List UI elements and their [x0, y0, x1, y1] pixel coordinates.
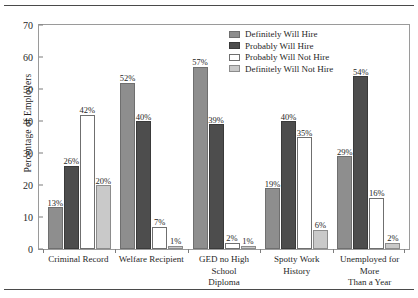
- y-tick-label: 50: [23, 84, 39, 95]
- bar-group: 29%54%16%2%: [333, 25, 405, 249]
- x-tick-mark: [115, 249, 116, 253]
- top-rule: [4, 5, 414, 6]
- bar-value-label: 16%: [369, 189, 385, 198]
- bar-value-label: 20%: [95, 177, 111, 186]
- x-category-label-line: Spotty Work: [260, 254, 333, 266]
- bar-slot: 2%: [385, 25, 400, 249]
- bar-slot: 26%: [64, 25, 79, 249]
- bar-group: 13%26%42%20%: [43, 25, 115, 249]
- bar[interactable]: 40%: [281, 121, 296, 249]
- bar-value-label: 2%: [387, 234, 398, 243]
- x-category-label-line: Than a Year: [333, 277, 406, 289]
- bar[interactable]: 1%: [168, 246, 183, 249]
- legend-item[interactable]: Definitely Will Not Hire: [229, 64, 333, 74]
- y-tick-label: 30: [23, 148, 39, 159]
- y-tick-label: 0: [28, 244, 39, 255]
- bar-slot: 54%: [353, 25, 368, 249]
- x-category-label-line: Unemployed for More: [333, 254, 406, 277]
- x-category-label: GED no High SchoolDiploma: [188, 254, 261, 289]
- legend-item[interactable]: Definitely Will Hire: [229, 29, 333, 39]
- x-category-label-line: History: [260, 266, 333, 278]
- bar[interactable]: 1%: [241, 246, 256, 249]
- bar-slot: 16%: [369, 25, 384, 249]
- plot-area: 010203040506070 13%26%42%20%52%40%7%1%57…: [38, 24, 410, 250]
- bar[interactable]: 42%: [80, 115, 95, 249]
- legend-label: Definitely Will Not Hire: [245, 64, 333, 74]
- x-tick-mark: [43, 249, 44, 253]
- x-tick-mark: [333, 249, 334, 253]
- legend-label: Definitely Will Hire: [245, 29, 317, 39]
- bar-value-label: 2%: [226, 234, 237, 243]
- bar-value-label: 52%: [120, 74, 136, 83]
- legend-swatch-icon: [229, 54, 240, 61]
- bar-value-label: 1%: [170, 237, 181, 246]
- bar[interactable]: 35%: [297, 137, 312, 249]
- bar-value-label: 7%: [154, 218, 165, 227]
- x-category-label: Spotty WorkHistory: [260, 254, 333, 289]
- bar-value-label: 35%: [297, 129, 313, 138]
- y-tick-label: 40: [23, 116, 39, 127]
- legend-label: Probably Will Hire: [245, 41, 313, 51]
- bar-slot: 29%: [337, 25, 352, 249]
- bar[interactable]: 26%: [64, 166, 79, 249]
- legend-swatch-icon: [229, 65, 240, 72]
- bar[interactable]: 52%: [120, 83, 135, 249]
- bar[interactable]: 20%: [96, 185, 111, 249]
- x-category-label: Unemployed for MoreThan a Year: [333, 254, 406, 289]
- bar[interactable]: 29%: [337, 156, 352, 249]
- bar[interactable]: 2%: [225, 243, 240, 249]
- x-category-label-line: GED no High School: [188, 254, 261, 277]
- bar-value-label: 42%: [79, 106, 95, 115]
- bar-slot: 57%: [193, 25, 208, 249]
- bar-slot: 40%: [136, 25, 151, 249]
- bar-slot: 7%: [152, 25, 167, 249]
- x-axis-categories: Criminal RecordWelfare RecipientGED no H…: [38, 254, 410, 289]
- y-tick-label: 60: [23, 52, 39, 63]
- x-tick-mark: [260, 249, 261, 253]
- bar[interactable]: 19%: [265, 188, 280, 249]
- bar-value-label: 1%: [242, 237, 253, 246]
- y-tick-label: 70: [23, 20, 39, 31]
- bar-group: 52%40%7%1%: [115, 25, 187, 249]
- bar[interactable]: 16%: [369, 198, 384, 249]
- bar-value-label: 19%: [265, 180, 281, 189]
- y-tick-label: 10: [23, 212, 39, 223]
- legend-item[interactable]: Probably Will Not Hire: [229, 52, 333, 62]
- bar-value-label: 26%: [63, 157, 79, 166]
- bar[interactable]: 54%: [353, 76, 368, 249]
- figure: Percentage of Employers 010203040506070 …: [0, 0, 418, 298]
- bar-slot: 39%: [209, 25, 224, 249]
- bar-slot: 1%: [168, 25, 183, 249]
- x-category-label: Criminal Record: [42, 254, 115, 289]
- bar-value-label: 40%: [281, 113, 297, 122]
- bar[interactable]: 7%: [152, 227, 167, 249]
- bar[interactable]: 39%: [209, 124, 224, 249]
- bar-value-label: 54%: [353, 68, 369, 77]
- legend-item[interactable]: Probably Will Hire: [229, 41, 333, 51]
- x-tick-mark: [404, 249, 405, 253]
- x-category-label-line: Diploma: [188, 277, 261, 289]
- bar-slot: 52%: [120, 25, 135, 249]
- bar[interactable]: 2%: [385, 243, 400, 249]
- bar-value-label: 57%: [192, 58, 208, 67]
- legend-swatch-icon: [229, 31, 240, 38]
- bar-value-label: 29%: [337, 148, 353, 157]
- bar[interactable]: 40%: [136, 121, 151, 249]
- legend-label: Probably Will Not Hire: [245, 52, 329, 62]
- bar-value-label: 6%: [315, 221, 326, 230]
- bar-slot: 42%: [80, 25, 95, 249]
- x-tick-mark: [188, 249, 189, 253]
- bar[interactable]: 6%: [313, 230, 328, 249]
- bar[interactable]: 57%: [193, 67, 208, 249]
- bar[interactable]: 13%: [48, 207, 63, 249]
- bar-value-label: 40%: [136, 113, 152, 122]
- chart-legend: Definitely Will HireProbably Will HirePr…: [229, 29, 333, 74]
- bar-value-label: 13%: [47, 199, 63, 208]
- y-tick-label: 20: [23, 180, 39, 191]
- bar-slot: 13%: [48, 25, 63, 249]
- bottom-rule: [4, 289, 414, 290]
- x-category-label-line: Criminal Record: [42, 254, 115, 266]
- legend-swatch-icon: [229, 42, 240, 49]
- bar-groups: 13%26%42%20%52%40%7%1%57%39%2%1%19%40%35…: [39, 25, 409, 249]
- x-category-label: Welfare Recipient: [115, 254, 188, 289]
